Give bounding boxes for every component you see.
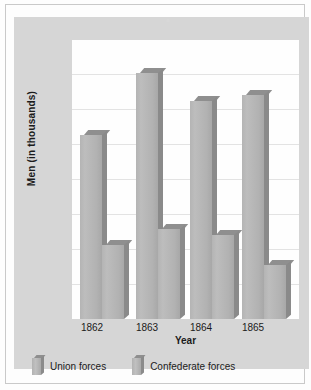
figure-frame: Men (in thousands): [5, 4, 305, 384]
chart-figure: Men (in thousands): [0, 0, 311, 390]
chart-legend: Union forces Confederate forces: [32, 355, 302, 377]
bar-face: [136, 73, 158, 319]
bar-face: [158, 229, 180, 319]
x-tick-1864: 1864: [171, 322, 231, 333]
bar-union-1864: [190, 101, 212, 319]
x-tick-1862: 1862: [62, 322, 122, 333]
bar-face: [212, 235, 234, 319]
x-axis-label: Year: [72, 335, 299, 346]
bar-face: [242, 95, 264, 319]
swatch-side: [141, 355, 144, 375]
bar-side: [286, 261, 291, 319]
bar-confederate-1862: [102, 245, 124, 319]
legend-label-confederate: Confederate forces: [150, 361, 235, 372]
bar-face: [264, 265, 286, 319]
bar-confederate-1865: [264, 265, 286, 319]
bar-union-1863: [136, 73, 158, 319]
bar-face: [80, 135, 102, 319]
legend-swatch-confederate: [132, 358, 141, 375]
legend-item-union: Union forces: [32, 358, 106, 375]
bar-confederate-1863: [158, 229, 180, 319]
bar-confederate-1864: [212, 235, 234, 319]
bar-side: [180, 225, 185, 319]
x-tick-1863: 1863: [117, 322, 177, 333]
bar-side: [124, 241, 129, 319]
legend-swatch-union: [32, 358, 41, 375]
gridline: [72, 74, 299, 75]
bar-face: [190, 101, 212, 319]
bar-face: [102, 245, 124, 319]
bar-side: [234, 231, 239, 319]
bar-union-1862: [80, 135, 102, 319]
legend-label-union: Union forces: [50, 361, 106, 372]
legend-item-confederate: Confederate forces: [132, 358, 235, 375]
swatch-face: [132, 358, 141, 375]
swatch-face: [32, 358, 41, 375]
scan-artifact: [166, 19, 170, 22]
x-tick-1865: 1865: [223, 322, 283, 333]
bar-union-1865: [242, 95, 264, 319]
plot-area: [72, 40, 299, 319]
swatch-side: [41, 355, 44, 375]
y-axis-label: Men (in thousands): [26, 54, 37, 224]
chart-panel: Men (in thousands): [14, 17, 309, 369]
